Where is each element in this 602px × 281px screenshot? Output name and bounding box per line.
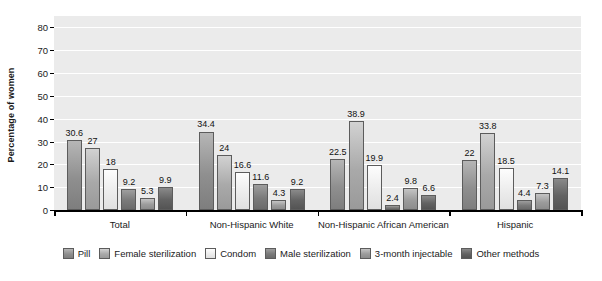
y-axis-tick-label: 0: [10, 205, 48, 216]
bar: [199, 132, 214, 211]
bar-value-label: 18: [106, 157, 116, 167]
bar-value-label: 18.5: [497, 156, 515, 166]
legend-label: Male sterilization: [280, 248, 351, 259]
bar-value-label: 11.6: [252, 172, 269, 182]
bar: [235, 172, 250, 210]
x-axis-group-label: Hispanic: [497, 219, 533, 230]
bar-value-label: 38.9: [347, 109, 365, 119]
bar-value-label: 27: [88, 136, 98, 146]
bar: [553, 178, 568, 210]
bar-value-label: 9.2: [123, 177, 136, 187]
bar-value-label: 9.2: [291, 177, 304, 187]
bar: [140, 198, 155, 210]
x-axis-group-separator: [318, 210, 320, 216]
legend-label: Condom: [220, 248, 256, 259]
legend-swatch-icon: [461, 248, 472, 259]
bar-value-label: 14.1: [552, 166, 570, 176]
legend-swatch-icon: [360, 248, 371, 259]
legend-swatch-icon: [63, 248, 74, 259]
legend-swatch-icon: [265, 248, 276, 259]
bar-value-label: 2.4: [386, 193, 399, 203]
bar: [85, 148, 100, 210]
bar-value-label: 6.6: [423, 183, 436, 193]
bar: [121, 189, 136, 210]
bar: [67, 140, 82, 210]
bar: [158, 187, 173, 210]
y-axis-tick-label: 30: [10, 136, 48, 147]
bar-value-label: 9.9: [159, 175, 172, 185]
bar-value-label: 33.8: [479, 121, 497, 131]
y-axis-tick-label: 60: [10, 68, 48, 79]
legend-item[interactable]: Male sterilization: [265, 248, 351, 259]
bar-chart-figure: Percentage of women 01020304050607080 30…: [0, 0, 602, 281]
x-axis-end-tick: [54, 210, 56, 216]
bar: [330, 159, 345, 210]
bar: [462, 160, 477, 210]
y-axis-tick-label: 70: [10, 45, 48, 56]
bar: [421, 195, 436, 210]
bar-value-label: 24: [219, 143, 229, 153]
bar: [253, 184, 268, 210]
bar-value-label: 4.4: [518, 188, 531, 198]
bars-layer: 30.627189.25.39.934.42416.611.64.39.222.…: [54, 16, 581, 210]
bar: [385, 205, 400, 210]
y-axis-tick-label: 10: [10, 182, 48, 193]
legend-label: Other methods: [476, 248, 539, 259]
bar-value-label: 5.3: [141, 186, 154, 196]
x-axis-group-separator: [449, 210, 451, 216]
y-axis-tick-label: 40: [10, 113, 48, 124]
legend-item[interactable]: Condom: [205, 248, 256, 259]
bar-value-label: 30.6: [66, 128, 84, 138]
legend-label: Female sterilization: [114, 248, 196, 259]
bar-value-label: 22.5: [329, 147, 347, 157]
bar: [290, 189, 305, 210]
bar-value-label: 7.3: [536, 181, 549, 191]
bar-value-label: 19.9: [366, 153, 384, 163]
bar: [499, 168, 514, 210]
x-axis-group-label: Non-Hispanic White: [210, 219, 294, 230]
legend-swatch-icon: [99, 248, 110, 259]
bar: [103, 169, 118, 210]
legend-item[interactable]: Pill: [63, 248, 91, 259]
legend-label: 3-month injectable: [375, 248, 453, 259]
x-axis-end-tick: [581, 210, 583, 216]
legend-item[interactable]: Other methods: [461, 248, 539, 259]
bar: [367, 165, 382, 210]
chart-legend: PillFemale sterilizationCondomMale steri…: [0, 248, 602, 259]
bar: [480, 133, 495, 210]
x-axis-group-label: Non-Hispanic African American: [318, 219, 449, 230]
legend-item[interactable]: Female sterilization: [99, 248, 196, 259]
y-axis-tick-label: 80: [10, 22, 48, 33]
legend-label: Pill: [78, 248, 91, 259]
bar: [217, 155, 232, 210]
bar-value-label: 22: [465, 148, 475, 158]
y-axis-tick-label: 20: [10, 159, 48, 170]
bar-value-label: 34.4: [197, 119, 215, 129]
y-axis-tick-label: 50: [10, 90, 48, 101]
legend-item[interactable]: 3-month injectable: [360, 248, 453, 259]
x-axis-group-separator: [186, 210, 188, 216]
bar: [271, 200, 286, 210]
bar: [535, 193, 550, 210]
bar: [349, 121, 364, 210]
bar-value-label: 9.8: [404, 176, 417, 186]
bar-value-label: 4.3: [273, 188, 286, 198]
bar-value-label: 16.6: [234, 160, 252, 170]
legend-swatch-icon: [205, 248, 216, 259]
bar: [403, 188, 418, 210]
x-axis-group-label: Total: [110, 219, 130, 230]
bar: [517, 200, 532, 210]
